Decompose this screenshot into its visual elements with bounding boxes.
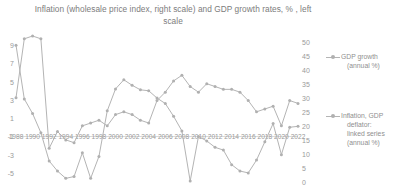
series-marker — [81, 124, 84, 127]
right-axis-tick-label: 10 — [302, 150, 310, 157]
series-marker — [31, 35, 34, 38]
legend-label-gdp-growth: GDP growth (annual %) — [340, 52, 380, 70]
series-marker — [205, 139, 208, 142]
series-marker — [89, 122, 92, 125]
legend-label-line: Inflation, GDP — [341, 111, 385, 120]
legend-entry-inflation[interactable]: Inflation, GDP deflator: linked series (… — [326, 111, 385, 147]
series-marker — [230, 88, 233, 91]
series-plot — [16, 36, 298, 182]
series-marker — [97, 155, 100, 158]
series-marker — [131, 84, 134, 87]
series-marker — [147, 89, 150, 92]
series-marker — [297, 125, 300, 128]
series-marker — [64, 138, 67, 141]
right-axis-tick-label: 25 — [302, 108, 310, 115]
series-marker — [172, 115, 175, 118]
left-axis-tick-label: 5 — [10, 78, 14, 85]
legend-label-line: deflator: — [341, 120, 385, 129]
series-marker — [222, 88, 225, 91]
series-marker — [263, 140, 266, 143]
legend-label-line: GDP growth — [341, 52, 380, 61]
left-axis-tick-label: -3 — [8, 151, 14, 158]
series-marker — [89, 177, 92, 180]
series-marker — [164, 102, 167, 105]
chart-title-line-1: Inflation (wholesale price index, right … — [35, 4, 284, 14]
series-marker — [23, 37, 26, 40]
series-marker — [97, 119, 100, 122]
series-marker — [247, 171, 250, 174]
series-marker — [147, 122, 150, 125]
right-axis-tick-label: 50 — [302, 38, 310, 45]
series-marker — [156, 99, 159, 102]
series-marker — [180, 129, 183, 132]
series-marker — [31, 112, 34, 115]
legend-label-line: (annual %) — [341, 61, 380, 70]
series-marker — [280, 153, 283, 156]
legend-entry-gdp-growth[interactable]: GDP growth (annual %) — [326, 52, 380, 70]
right-axis-tick-label: 0 — [302, 179, 306, 186]
series-marker — [288, 99, 291, 102]
series-marker — [73, 141, 76, 144]
series-marker — [56, 130, 59, 133]
series-marker — [263, 108, 266, 111]
series-marker — [122, 78, 125, 81]
series-marker — [73, 175, 76, 178]
series-marker — [272, 105, 275, 108]
right-axis-tick-label: 30 — [302, 94, 310, 101]
series-marker — [139, 119, 142, 122]
series-marker — [139, 88, 142, 91]
series-marker — [122, 110, 125, 113]
series-marker — [214, 146, 217, 149]
series-marker — [214, 85, 217, 88]
series-marker — [131, 113, 134, 116]
right-axis-tick-label: 5 — [302, 164, 306, 171]
chart-title: Inflation (wholesale price index, right … — [28, 4, 318, 27]
left-axis-tick-label: -5 — [8, 169, 14, 176]
series-marker — [48, 160, 51, 163]
series-marker — [64, 177, 67, 180]
right-axis-tick-label: 20 — [302, 122, 310, 129]
series-marker — [255, 110, 258, 113]
series-marker — [39, 37, 42, 40]
series-marker — [39, 131, 42, 134]
series-marker — [114, 113, 117, 116]
series-marker — [238, 170, 241, 173]
series-marker — [205, 82, 208, 85]
legend-marker-icon — [326, 112, 340, 120]
series-marker — [247, 99, 250, 102]
series-marker — [114, 87, 117, 90]
right-axis-tick-label: 40 — [302, 66, 310, 73]
series-marker — [197, 91, 200, 94]
plot-area: 97531-1-3-5 50454035302520151050 1988199… — [16, 36, 298, 182]
left-axis-tick-label: 7 — [10, 60, 14, 67]
series-marker — [172, 79, 175, 82]
legend-label-line: (annual %) — [341, 138, 385, 147]
chart-container: Inflation (wholesale price index, right … — [0, 0, 401, 190]
legend-marker-icon — [326, 53, 340, 61]
series-marker — [189, 180, 192, 183]
series-marker — [297, 102, 300, 105]
series-marker — [180, 74, 183, 77]
left-axis-tick-label: 9 — [10, 42, 14, 49]
series-marker — [280, 124, 283, 127]
series-marker — [106, 124, 109, 127]
series-marker — [106, 109, 109, 112]
series-marker — [81, 151, 84, 154]
series-marker — [230, 163, 233, 166]
series-marker — [255, 159, 258, 162]
right-axis-tick-label: 45 — [302, 52, 310, 59]
right-axis-tick-label: 35 — [302, 80, 310, 87]
series-marker — [15, 96, 18, 99]
series-marker — [238, 91, 241, 94]
legend-label-line: linked series — [341, 129, 385, 138]
left-axis-tick-label: 1 — [10, 115, 14, 122]
legend-label-inflation: Inflation, GDP deflator: linked series (… — [340, 111, 385, 147]
series-marker — [288, 126, 291, 129]
series-marker — [222, 149, 225, 152]
series-marker — [23, 97, 26, 100]
series-marker — [15, 44, 18, 47]
series-marker — [56, 170, 59, 173]
series-marker — [189, 85, 192, 88]
series-marker — [197, 135, 200, 138]
left-axis-tick-label: 3 — [10, 96, 14, 103]
